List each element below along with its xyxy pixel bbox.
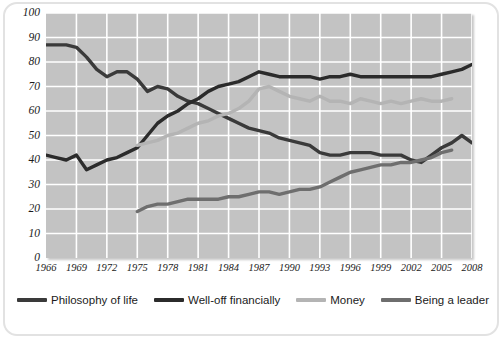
x-tick-label: 1972	[90, 262, 124, 273]
x-tick-label: 2005	[425, 262, 459, 273]
legend-swatch-icon	[154, 298, 184, 302]
plot-svg	[46, 13, 472, 258]
y-tick-label: 30	[10, 178, 40, 190]
legend-swatch-icon	[17, 298, 47, 302]
y-tick-label: 20	[10, 202, 40, 214]
series-line-money	[137, 87, 451, 146]
line-chart: 1009080706050403020100 19661969197219751…	[0, 0, 504, 341]
y-tick-label: 90	[10, 31, 40, 43]
legend-item[interactable]: Money	[296, 294, 365, 306]
legend-item[interactable]: Philosophy of life	[17, 294, 138, 306]
y-tick-label: 60	[10, 104, 40, 116]
chart-legend: Philosophy of lifeWell-off financiallyMo…	[28, 289, 478, 311]
plot-area	[46, 13, 472, 258]
x-tick-label: 2008	[455, 262, 489, 273]
legend-label: Being a leader	[415, 294, 489, 306]
x-tick-label: 1987	[242, 262, 276, 273]
legend-item[interactable]: Being a leader	[381, 294, 489, 306]
legend-item[interactable]: Well-off financially	[154, 294, 280, 306]
x-tick-label: 1978	[151, 262, 185, 273]
legend-swatch-icon	[296, 298, 326, 302]
y-tick-label: 40	[10, 153, 40, 165]
x-tick-label: 1993	[303, 262, 337, 273]
y-tick-label: 70	[10, 80, 40, 92]
legend-swatch-icon	[381, 298, 411, 302]
x-tick-label: 1990	[272, 262, 306, 273]
x-tick-label: 1984	[212, 262, 246, 273]
y-tick-label: 50	[10, 129, 40, 141]
legend-label: Philosophy of life	[51, 294, 138, 306]
y-tick-label: 80	[10, 55, 40, 67]
x-tick-label: 1975	[120, 262, 154, 273]
legend-label: Money	[330, 294, 365, 306]
gridlines	[46, 13, 472, 258]
legend-label: Well-off financially	[188, 294, 280, 306]
y-tick-label: 100	[10, 6, 40, 18]
x-tick-label: 2002	[394, 262, 428, 273]
y-tick-label: 10	[10, 227, 40, 239]
x-tick-label: 1996	[333, 262, 367, 273]
x-tick-label: 1981	[181, 262, 215, 273]
x-tick-label: 1969	[59, 262, 93, 273]
x-tick-label: 1999	[364, 262, 398, 273]
x-tick-label: 1966	[29, 262, 63, 273]
